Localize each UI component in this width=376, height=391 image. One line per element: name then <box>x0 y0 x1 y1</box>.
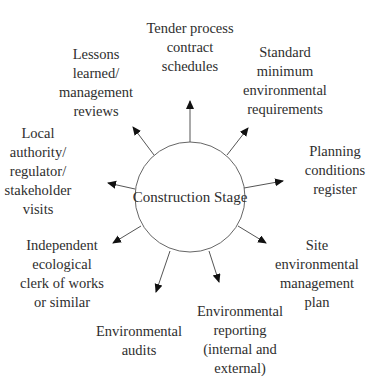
node-text-line: register <box>305 180 365 199</box>
node-text-line: Local <box>5 124 72 143</box>
node-site-environmental-management-plan: Site environmental management plan <box>275 236 359 312</box>
node-text-line: requirements <box>243 100 327 119</box>
node-environmental-reporting: Environmental reporting (internal and ex… <box>197 302 283 378</box>
node-text-line: authority/ <box>5 143 72 162</box>
node-local-authority-visits: Local authority/ regulator/ stakeholder … <box>5 124 72 219</box>
node-text-line: minimum <box>243 62 327 81</box>
node-text-line: conditions <box>305 161 365 180</box>
arrow-to-local <box>108 183 135 189</box>
node-text-line: ecological <box>20 255 104 274</box>
node-text-line: visits <box>5 200 72 219</box>
node-text-line: Environmental <box>96 322 182 341</box>
node-text-line: management <box>59 83 133 102</box>
node-text-line: stakeholder <box>5 181 72 200</box>
node-standard-minimum-requirements: Standard minimum environmental requireme… <box>243 43 327 119</box>
node-text-line: environmental <box>275 255 359 274</box>
arrow-to-independent <box>113 226 141 243</box>
node-text-line: schedules <box>146 57 233 76</box>
arrow-to-reporting <box>209 251 219 282</box>
node-text-line: reporting <box>197 321 283 340</box>
node-text-line: environmental <box>243 81 327 100</box>
node-text-line: Site <box>275 236 359 255</box>
arrow-to-audits <box>156 251 170 292</box>
node-text-line: management <box>275 274 359 293</box>
node-text-line: or similar <box>20 293 104 312</box>
arrow-to-site <box>238 226 266 243</box>
node-text-line: plan <box>275 293 359 312</box>
node-text-line: regulator/ <box>5 162 72 181</box>
node-text-line: external) <box>197 359 283 378</box>
node-text-line: clerk of works <box>20 274 104 293</box>
node-text-line: (internal and <box>197 340 283 359</box>
arrow-to-standard <box>227 128 248 155</box>
node-text-line: reviews <box>59 102 133 121</box>
node-text-line: Standard <box>243 43 327 62</box>
node-independent-ecological-clerk: Independent ecological clerk of works or… <box>20 236 104 312</box>
arrow-to-planning <box>244 181 283 188</box>
node-text-line: Independent <box>20 236 104 255</box>
diagram-canvas: Construction Stage Tender process contra… <box>0 0 376 391</box>
node-environmental-audits: Environmental audits <box>96 322 182 360</box>
node-planning-conditions-register: Planning conditions register <box>305 142 365 199</box>
node-text-line: learned/ <box>59 64 133 83</box>
arrow-to-lessons <box>133 127 154 155</box>
node-tender-process: Tender process contract schedules <box>146 19 233 76</box>
node-text-line: Planning <box>305 142 365 161</box>
node-lessons-learned: Lessons learned/ management reviews <box>59 45 133 121</box>
node-text-line: audits <box>96 341 182 360</box>
node-text-line: Environmental <box>197 302 283 321</box>
node-text-line: Lessons <box>59 45 133 64</box>
node-text-line: Tender process <box>146 19 233 38</box>
node-text-line: contract <box>146 38 233 57</box>
center-label: Construction Stage <box>133 188 248 207</box>
